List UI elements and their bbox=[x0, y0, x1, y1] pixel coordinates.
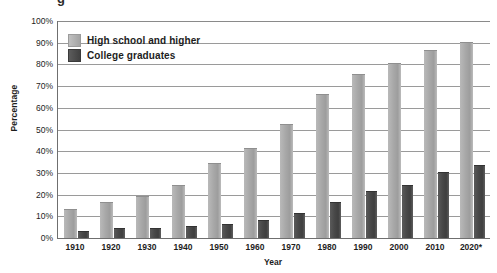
bar-college-graduates bbox=[366, 191, 377, 238]
bar-group bbox=[418, 21, 454, 238]
y-axis-tick-labels: 100%90%80%70%60%50%40%30%20%10%0% bbox=[0, 21, 53, 238]
x-axis-title: Year bbox=[57, 257, 489, 267]
bar-high-school-and-higher bbox=[316, 94, 329, 238]
x-tick-label: 1920 bbox=[102, 242, 121, 252]
y-tick-label: 90% bbox=[0, 38, 53, 48]
x-tick-label: 1930 bbox=[138, 242, 157, 252]
bar-high-school-and-higher bbox=[64, 209, 77, 238]
bar-high-school-and-higher bbox=[388, 63, 401, 238]
bar-high-school-and-higher bbox=[208, 163, 221, 238]
bar-chart: g Percentage 100%90%80%70%60%50%40%30%20… bbox=[0, 0, 497, 273]
bar-college-graduates bbox=[222, 224, 233, 238]
legend: High school and higherCollege graduates bbox=[68, 33, 200, 63]
bar-high-school-and-higher bbox=[244, 148, 257, 238]
bar-high-school-and-higher bbox=[100, 202, 113, 238]
y-tick-label: 60% bbox=[0, 103, 53, 113]
x-tick-label: 1910 bbox=[66, 242, 85, 252]
y-tick-label: 20% bbox=[0, 190, 53, 200]
legend-label: College graduates bbox=[87, 50, 175, 61]
y-tick-label: 100% bbox=[0, 16, 53, 26]
y-tick-label: 80% bbox=[0, 59, 53, 69]
bar-high-school-and-higher bbox=[352, 74, 365, 238]
bar-group bbox=[238, 21, 274, 238]
x-tick-label: 2000 bbox=[390, 242, 409, 252]
y-tick-label: 0% bbox=[0, 233, 53, 243]
x-tick-label: 1960 bbox=[246, 242, 265, 252]
y-tick-label: 30% bbox=[0, 168, 53, 178]
bar-college-graduates bbox=[438, 172, 449, 238]
x-tick-label: 1940 bbox=[174, 242, 193, 252]
bar-high-school-and-higher bbox=[424, 50, 437, 238]
y-tick-label: 10% bbox=[0, 211, 53, 221]
bar-high-school-and-higher bbox=[172, 185, 185, 238]
clipped-title-glyph: g bbox=[57, 0, 65, 6]
bar-college-graduates bbox=[330, 202, 341, 238]
bar-high-school-and-higher bbox=[280, 124, 293, 238]
y-tick-label: 50% bbox=[0, 125, 53, 135]
bar-high-school-and-higher bbox=[460, 42, 473, 238]
legend-swatch-icon bbox=[68, 34, 81, 47]
y-tick-label: 40% bbox=[0, 146, 53, 156]
bar-high-school-and-higher bbox=[136, 196, 149, 238]
bar-group bbox=[274, 21, 310, 238]
legend-label: High school and higher bbox=[87, 35, 200, 46]
bar-group bbox=[310, 21, 346, 238]
legend-item: High school and higher bbox=[68, 33, 200, 47]
bar-college-graduates bbox=[474, 165, 485, 238]
x-axis-tick-labels: 1910192019301940195019601970198019902000… bbox=[57, 242, 489, 256]
bar-college-graduates bbox=[258, 220, 269, 238]
legend-swatch-icon bbox=[68, 49, 81, 62]
bar-college-graduates bbox=[294, 213, 305, 238]
x-tick-label: 2020* bbox=[460, 242, 482, 252]
bar-group bbox=[202, 21, 238, 238]
x-tick-label: 1980 bbox=[318, 242, 337, 252]
bar-group bbox=[382, 21, 418, 238]
bar-college-graduates bbox=[114, 228, 125, 238]
bar-college-graduates bbox=[78, 231, 89, 239]
y-tick-label: 70% bbox=[0, 81, 53, 91]
bar-group bbox=[346, 21, 382, 238]
x-tick-label: 1990 bbox=[354, 242, 373, 252]
bar-college-graduates bbox=[186, 226, 197, 238]
x-tick-label: 2010 bbox=[426, 242, 445, 252]
legend-item: College graduates bbox=[68, 48, 200, 62]
x-tick-label: 1970 bbox=[282, 242, 301, 252]
bar-college-graduates bbox=[150, 228, 161, 238]
x-tick-label: 1950 bbox=[210, 242, 229, 252]
bar-group bbox=[454, 21, 490, 238]
bar-college-graduates bbox=[402, 185, 413, 238]
